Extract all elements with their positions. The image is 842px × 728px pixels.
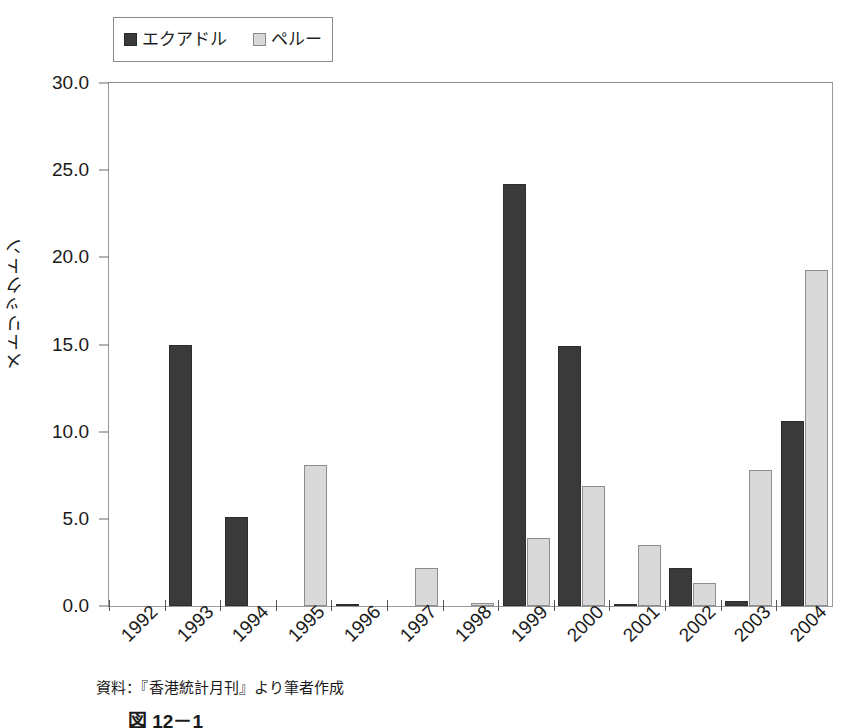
bar-エクアドル-2001 [614,604,637,606]
x-axis-label-cell: 2000 [554,610,610,672]
bar-group [331,83,387,606]
bar-ペルー-1995 [304,465,327,606]
bar-エクアドル-1996 [336,604,359,606]
bar-group [387,83,443,606]
bar-group [554,83,610,606]
x-axis-label-cell: 2003 [721,610,777,672]
legend-label-ecuador: エクアドル [142,31,227,48]
x-axis-label-cell: 2001 [610,610,666,672]
bar-group [498,83,554,606]
bar-ペルー-1999 [527,538,550,606]
y-axis-tick-mark [99,606,109,607]
legend-swatch-peru [253,33,266,46]
x-axis-label-1994: 1994 [228,601,273,646]
x-axis-label-1993: 1993 [172,601,217,646]
x-axis-label-cell: 2002 [666,610,722,672]
y-axis-tick-mark [99,431,109,432]
figure-caption: 図 12－1 [128,706,203,728]
bar-ペルー-1997 [415,568,438,606]
x-axis-label-2004: 2004 [786,601,831,646]
legend-entry-ecuador: エクアドル [124,31,227,48]
bar-group [776,83,832,606]
bar-series-layer [109,83,832,606]
x-axis-label-cell: 1994 [220,610,276,672]
bar-ペルー-2004 [805,270,828,606]
x-axis-label-2003: 2003 [730,601,775,646]
legend-swatch-ecuador [124,33,137,46]
y-axis-title: メトリックトン [2,0,30,607]
y-axis-tick-label: 15.0 [52,334,89,356]
y-axis-tick-label: 25.0 [52,159,89,181]
bar-group [721,83,777,606]
y-axis-tick-mark [99,344,109,345]
legend-entry-peru: ペルー [253,31,322,48]
plot-inner: 0.05.010.015.020.025.030.0 [109,83,832,606]
x-axis-label-cell: 1992 [108,610,164,672]
bar-group [665,83,721,606]
y-axis-tick-mark [99,518,109,519]
bar-group [276,83,332,606]
bar-ペルー-2003 [749,470,772,606]
bar-エクアドル-2004 [781,421,804,606]
x-axis-label-2001: 2001 [619,601,664,646]
x-axis-label-2002: 2002 [674,601,719,646]
y-axis-tick-label: 20.0 [52,246,89,268]
x-axis-label-1996: 1996 [340,601,385,646]
x-axis-label-cell: 2004 [777,610,833,672]
x-axis-label-1998: 1998 [451,601,496,646]
bar-エクアドル-1993 [169,345,192,607]
bar-group [609,83,665,606]
y-axis-tick-label: 0.0 [63,595,89,617]
x-axis-label-cell: 1997 [387,610,443,672]
y-axis-tick-label: 30.0 [52,72,89,94]
bar-エクアドル-2003 [725,601,748,606]
x-axis-label-cell: 1996 [331,610,387,672]
y-axis-tick-label: 10.0 [52,421,89,443]
legend-label-peru: ペルー [271,31,322,48]
bar-group [109,83,165,606]
x-axis-label-cell: 1998 [443,610,499,672]
x-axis-label-1992: 1992 [117,601,162,646]
source-note: 資料：『香港統計月刊』より筆者作成 [96,676,344,697]
chart-plot-area: 0.05.010.015.020.025.030.0 [108,82,833,607]
x-axis-label-1999: 1999 [507,601,552,646]
x-axis-label-cell: 1993 [164,610,220,672]
bar-group [443,83,499,606]
y-axis-tick-label: 5.0 [63,508,89,530]
bar-エクアドル-2000 [558,346,581,606]
bar-group [220,83,276,606]
bar-エクアドル-2002 [669,568,692,606]
x-axis-label-cell: 1999 [498,610,554,672]
bar-group [165,83,221,606]
x-axis-labels: 1992199319941995199619971998199920002001… [108,610,833,672]
y-axis-tick-mark [99,170,109,171]
x-axis-label-2000: 2000 [563,601,608,646]
x-axis-label-1997: 1997 [396,601,441,646]
bar-エクアドル-1994 [225,517,248,606]
bar-ペルー-2001 [638,545,661,606]
x-axis-label-1995: 1995 [284,601,329,646]
x-axis-label-cell: 1995 [275,610,331,672]
y-axis-tick-mark [99,83,109,84]
bar-ペルー-2000 [582,486,605,606]
chart-legend: エクアドル ペルー [113,17,333,62]
y-axis-tick-mark [99,257,109,258]
bar-エクアドル-1999 [503,184,526,606]
